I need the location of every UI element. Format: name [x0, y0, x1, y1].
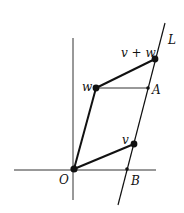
point-v: [131, 141, 138, 148]
diagram-svg: L v + w w A v O B: [0, 0, 184, 213]
label-origin: O: [59, 173, 69, 187]
label-sum: v + w: [121, 46, 156, 60]
point-a: [146, 86, 150, 90]
label-b: B: [130, 174, 140, 188]
label-l: L: [167, 33, 176, 47]
label-v: v: [122, 133, 129, 147]
point-w: [93, 85, 100, 92]
point-origin: [70, 165, 77, 172]
segment-w-sum: [96, 59, 155, 88]
vector-v: [74, 144, 134, 169]
vector-w: [74, 88, 96, 169]
parallelogram-diagram: L v + w w A v O B: [0, 0, 184, 213]
label-a: A: [151, 83, 161, 97]
label-w: w: [82, 80, 93, 94]
point-b: [125, 167, 129, 171]
